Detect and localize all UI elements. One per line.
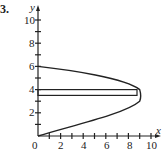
y-tick-label: 6 (29, 60, 35, 72)
y-tick-label: 10 (24, 14, 35, 26)
x-tick-label: 10 (146, 139, 157, 151)
problem-number: 3. (0, 2, 9, 17)
x-tick-label: 4 (81, 139, 87, 151)
y-axis-label: y (30, 1, 35, 13)
x-tick-label: 0 (32, 139, 38, 151)
x-tick-label: 6 (104, 139, 110, 151)
y-tick-label: 2 (29, 106, 35, 118)
x-tick-label: 2 (58, 139, 64, 151)
x-tick-label: 8 (127, 139, 133, 151)
y-tick-label: 4 (29, 83, 35, 95)
y-tick-label: 8 (29, 37, 35, 49)
x-axis-label: x (156, 124, 161, 136)
